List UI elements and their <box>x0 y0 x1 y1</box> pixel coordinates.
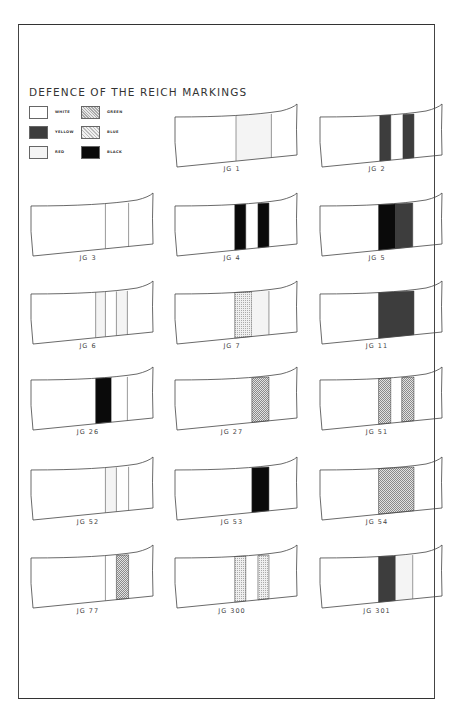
fuselage-diagram <box>318 103 444 163</box>
fuselage-diagram <box>318 456 444 516</box>
unit-caption: JG 2 <box>314 165 440 173</box>
legend-item-white: WHITE <box>29 105 70 119</box>
unit-caption: JG 301 <box>314 607 440 615</box>
legend-label: YELLOW <box>55 130 74 134</box>
legend-label: BLACK <box>107 150 122 154</box>
fuselage-diagram <box>29 456 155 516</box>
page-title: DEFENCE OF THE REICH MARKINGS <box>29 86 247 98</box>
legend-swatch-yellow <box>29 126 48 139</box>
unit-caption: JG 27 <box>169 428 295 436</box>
unit-caption: JG 6 <box>25 342 151 350</box>
fuselage-diagram <box>318 366 444 426</box>
unit-caption: JG 54 <box>314 518 440 526</box>
unit-caption: JG 26 <box>25 428 151 436</box>
fuselage-diagram <box>173 103 299 163</box>
fuselage-diagram <box>173 366 299 426</box>
fuselage-diagram <box>318 280 444 340</box>
unit-caption: JG 11 <box>314 342 440 350</box>
fuselage-diagram <box>173 280 299 340</box>
legend-item-red: RED <box>29 145 64 159</box>
legend-swatch-red <box>29 146 48 159</box>
legend-label: RED <box>55 150 64 154</box>
legend-label: GREEN <box>107 110 123 114</box>
unit-caption: JG 77 <box>25 607 151 615</box>
legend-label: WHITE <box>55 110 70 114</box>
legend-label: BLUE <box>107 130 119 134</box>
legend: WHITE YELLOW RED GREEN BLUE BLACK <box>29 105 169 165</box>
legend-swatch-blue <box>81 126 100 139</box>
unit-caption: JG 52 <box>25 518 151 526</box>
unit-caption: JG 3 <box>25 254 151 262</box>
fuselage-diagram <box>29 366 155 426</box>
legend-item-blue: BLUE <box>81 125 119 139</box>
legend-item-black: BLACK <box>81 145 122 159</box>
legend-item-yellow: YELLOW <box>29 125 74 139</box>
fuselage-diagram <box>318 192 444 252</box>
fuselage-diagram <box>29 544 155 604</box>
unit-caption: JG 5 <box>314 254 440 262</box>
legend-swatch-green <box>81 106 100 119</box>
fuselage-diagram <box>29 192 155 252</box>
unit-caption: JG 53 <box>169 518 295 526</box>
unit-caption: JG 1 <box>169 165 295 173</box>
fuselage-diagram <box>318 544 444 604</box>
fuselage-diagram <box>173 456 299 516</box>
fuselage-diagram <box>173 192 299 252</box>
unit-caption: JG 300 <box>169 607 295 615</box>
legend-swatch-white <box>29 106 48 119</box>
legend-item-green: GREEN <box>81 105 123 119</box>
unit-caption: JG 51 <box>314 428 440 436</box>
unit-caption: JG 7 <box>169 342 295 350</box>
fuselage-diagram <box>29 280 155 340</box>
legend-swatch-black <box>81 146 100 159</box>
unit-caption: JG 4 <box>169 254 295 262</box>
fuselage-diagram <box>173 544 299 604</box>
